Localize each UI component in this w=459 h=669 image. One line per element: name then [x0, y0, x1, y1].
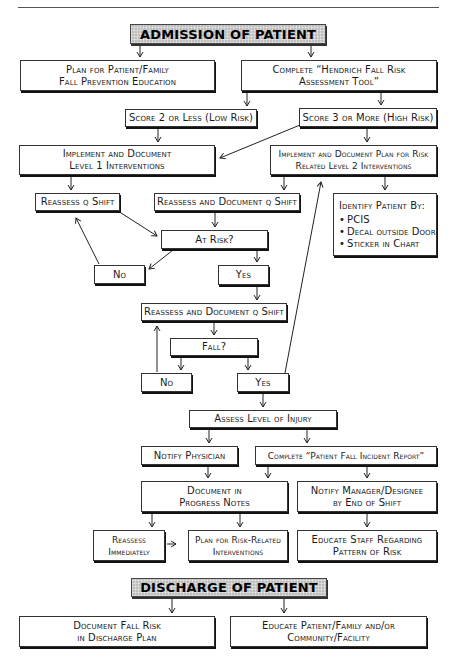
score-low-risk-node: Score 2 or Less (Low Risk)	[125, 109, 257, 127]
notify-manager-node: Notify Manager/Designee by End of Shift	[297, 481, 437, 512]
implement-level1-node: Implement and Document Level 1 Intervent…	[19, 145, 215, 175]
node-text-line: Pattern of Risk	[333, 546, 402, 558]
node-text-line: Document Fall Risk	[73, 620, 161, 632]
node-text: No	[160, 377, 173, 389]
identify-title: Identify Patient By:	[339, 200, 425, 212]
node-text-line: Plan for Risk-Related	[195, 534, 281, 546]
node-text-line: Reassess	[112, 534, 146, 546]
connector-arrows	[0, 0, 459, 669]
node-text: At Risk?	[195, 234, 233, 246]
document-discharge-plan-node: Document Fall Risk in Discharge Plan	[19, 616, 215, 647]
admission-banner-label: ADMISSION OF PATIENT	[140, 27, 316, 42]
reassess-immediately-node: Reassess Immediately	[93, 530, 165, 561]
node-text: Yes	[236, 269, 251, 281]
discharge-banner-label: DISCHARGE OF PATIENT	[140, 580, 318, 595]
identify-patient-node: Identify Patient By: PCIS Decal outside …	[333, 193, 437, 256]
node-text: Reassess and Document q Shift	[157, 196, 297, 208]
assess-injury-node: Assess Level of Injury	[189, 410, 337, 428]
node-text: Notify Physician	[154, 450, 225, 462]
score-high-risk-node: Score 3 or More (High Risk)	[299, 108, 437, 127]
node-text: Complete “Patient Fall Incident Report”	[268, 450, 425, 462]
node-text: Assess Level of Injury	[214, 413, 311, 425]
node-text-line: Document in	[187, 485, 242, 497]
node-text-line: Assessment Tool”	[299, 76, 379, 88]
node-text-line: Educate Staff Regarding	[312, 534, 423, 546]
at-risk-decision-node: At Risk?	[161, 230, 268, 249]
at-risk-yes-node: Yes	[218, 265, 269, 285]
reassess-document-node-1: Reassess and Document q Shift	[154, 193, 300, 211]
discharge-banner: DISCHARGE OF PATIENT	[131, 578, 327, 597]
node-text: Yes	[255, 377, 270, 389]
document-progress-notes-node: Document in Progress Notes	[141, 481, 288, 512]
reassess-q-shift-node: Reassess q Shift	[35, 193, 120, 211]
reassess-document-node-2: Reassess and Document q Shift	[141, 303, 287, 321]
node-text-line: in Discharge Plan	[77, 632, 156, 644]
node-text-line: Level 1 Interventions	[69, 160, 164, 172]
complete-incident-report-node: Complete “Patient Fall Incident Report”	[255, 446, 437, 465]
node-text: No	[113, 269, 126, 281]
node-text-line: Interventions	[213, 546, 264, 558]
fall-yes-node: Yes	[237, 373, 289, 392]
node-text-line: Community/Facility	[287, 632, 370, 644]
node-text-line: Implement and Document	[63, 148, 172, 160]
node-text-line: Implement and Document Plan for Risk	[279, 148, 429, 160]
node-text: Score 3 or More (High Risk)	[303, 112, 434, 124]
identify-item-sticker: Sticker in Chart	[339, 238, 419, 250]
node-text: Reassess q Shift	[41, 196, 115, 208]
fall-no-node: No	[141, 373, 192, 392]
implement-level2-node: Implement and Document Plan for Risk Rel…	[270, 145, 437, 175]
notify-physician-node: Notify Physician	[141, 446, 238, 465]
educate-patient-family-node: Educate Patient/Family and/or Community/…	[230, 616, 427, 647]
identify-item-decal: Decal outside Door	[339, 226, 436, 238]
node-text: Fall?	[202, 341, 226, 353]
header-rule	[18, 7, 439, 8]
admission-banner: ADMISSION OF PATIENT	[130, 24, 326, 44]
node-text-line: Progress Notes	[179, 497, 250, 509]
identify-item-pcis: PCIS	[339, 214, 370, 226]
fall-decision-node: Fall?	[170, 338, 258, 356]
complete-hendrich-node: Complete “Hendrich Fall Risk Assessment …	[241, 60, 437, 91]
node-text: Reassess and Document q Shift	[144, 306, 284, 318]
node-text-line: by End of Shift	[333, 497, 401, 509]
educate-staff-node: Educate Staff Regarding Pattern of Risk	[297, 530, 437, 561]
node-text-line: Immediately	[108, 546, 150, 558]
node-text: Score 2 or Less (Low Risk)	[129, 112, 253, 124]
plan-risk-related-node: Plan for Risk-Related Interventions	[188, 530, 288, 561]
node-text-line: Notify Manager/Designee	[311, 485, 424, 497]
plan-education-node: Plan for Patient/Family Fall Prevention …	[20, 60, 215, 91]
at-risk-no-node: No	[94, 265, 145, 284]
node-text-line: Related Level 2 Interventions	[296, 160, 412, 172]
node-text-line: Fall Prevention Education	[59, 76, 176, 88]
node-text-line: Complete “Hendrich Fall Risk	[272, 64, 405, 76]
node-text-line: Educate Patient/Family and/or	[262, 620, 395, 632]
node-text-line: Plan for Patient/Family	[66, 64, 169, 76]
